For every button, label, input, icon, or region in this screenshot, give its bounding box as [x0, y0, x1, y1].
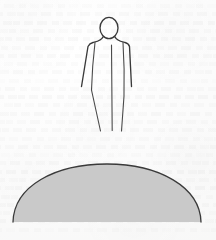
left-body-contour: [92, 43, 101, 132]
head-outline: [100, 17, 118, 38]
centre-leg-line: [112, 45, 113, 131]
artwork-canvas: [0, 0, 216, 240]
dome-shape: [13, 164, 201, 222]
human-figure: [82, 17, 132, 131]
right-body-contour: [122, 43, 125, 132]
scanned-page: [0, 0, 216, 240]
dome-fill: [13, 164, 201, 222]
